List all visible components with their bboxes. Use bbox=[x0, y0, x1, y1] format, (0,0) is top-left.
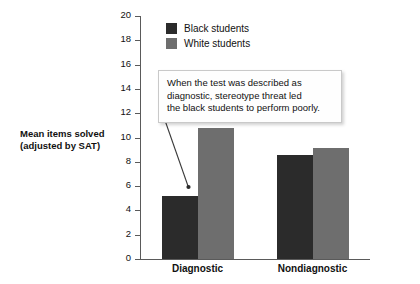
annotation-text: When the test was described asdiagnostic… bbox=[167, 77, 333, 115]
legend-swatch-icon bbox=[166, 38, 177, 49]
y-tick-label: 10 bbox=[120, 131, 131, 142]
y-tick-label: 18 bbox=[120, 33, 131, 44]
y-tick-label: 2 bbox=[126, 228, 131, 239]
y-tick-label: 12 bbox=[120, 106, 131, 117]
x-axis-line bbox=[140, 259, 370, 260]
y-tick-label: 4 bbox=[126, 203, 131, 214]
y-tick-label: 6 bbox=[126, 179, 131, 190]
y-tick-label: 8 bbox=[126, 155, 131, 166]
legend-item: White students bbox=[166, 36, 250, 51]
annotation-text-line: diagnostic, stereotype threat led bbox=[167, 90, 333, 103]
bar-diagnostic-black bbox=[162, 196, 198, 259]
bar-chart-figure: Mean items solved (adjusted by SAT) 0246… bbox=[0, 0, 420, 284]
legend-item: Black students bbox=[166, 21, 250, 36]
annotation-callout: When the test was described asdiagnostic… bbox=[158, 70, 342, 123]
y-tick-label: 16 bbox=[120, 58, 131, 69]
annotation-text-line: When the test was described as bbox=[167, 77, 333, 90]
x-axis-label: Nondiagnostic bbox=[253, 263, 373, 274]
legend-label: Black students bbox=[184, 23, 249, 34]
y-tick-mark bbox=[135, 259, 140, 260]
bar-nondiagnostic-black bbox=[277, 155, 313, 259]
legend-swatch-icon bbox=[166, 23, 177, 34]
y-tick-label: 0 bbox=[126, 252, 131, 263]
bar-nondiagnostic-white bbox=[313, 148, 349, 259]
legend-label: White students bbox=[184, 38, 250, 49]
y-axis-title: Mean items solved (adjusted by SAT) bbox=[20, 128, 124, 152]
x-axis-label: Diagnostic bbox=[138, 263, 258, 274]
bar-diagnostic-white bbox=[198, 128, 234, 259]
y-tick-label: 20 bbox=[120, 9, 131, 20]
annotation-text-line: the black students to perform poorly. bbox=[167, 102, 333, 115]
y-axis-title-line-2: (adjusted by SAT) bbox=[20, 140, 124, 152]
chart-legend: Black studentsWhite students bbox=[166, 21, 250, 51]
y-axis-title-line-1: Mean items solved bbox=[20, 128, 124, 140]
bars-layer bbox=[140, 16, 370, 259]
y-tick-label: 14 bbox=[120, 82, 131, 93]
